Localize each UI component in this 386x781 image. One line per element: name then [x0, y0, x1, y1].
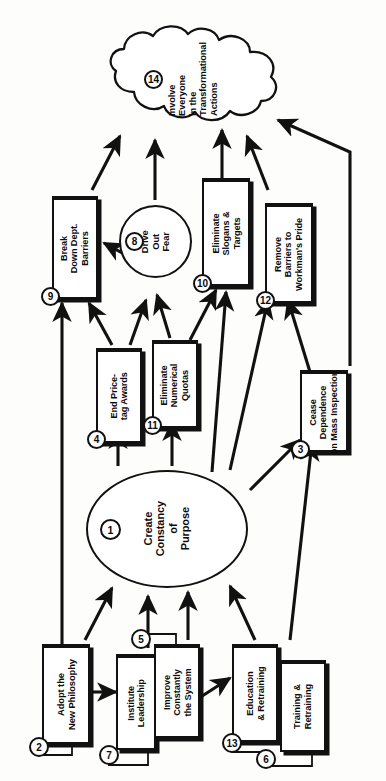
- node-7-label: Institute Leadership: [126, 679, 147, 727]
- node-11-box[interactable]: Eliminate Numerical Quotas: [152, 340, 198, 428]
- edge-12-to-14: [247, 136, 268, 190]
- node-2-box[interactable]: Adopt the New Philosophy: [42, 644, 90, 744]
- node-6-text-wrap: Training & Retraining: [282, 664, 324, 750]
- node-9-text-wrap: Break Down Dept. Barriers: [54, 200, 96, 297]
- edge-11-to-8: [157, 295, 170, 338]
- node-7-number: 7: [99, 745, 119, 765]
- node-3-number: 3: [291, 440, 310, 459]
- edge-2-to-1: [85, 588, 112, 640]
- node-12-number: 12: [256, 291, 275, 310]
- node-1-label: Create Constancy of Purpose: [142, 501, 191, 556]
- node-4-label: End Price- tag Awards: [109, 372, 130, 420]
- node-4-text-wrap: End Price- tag Awards: [98, 352, 140, 441]
- node-13-text-wrap: Education & Retraining: [234, 648, 276, 740]
- node-3-label: Cease Dependence on Mass Inspection: [309, 370, 340, 453]
- edge-3-to-12: [288, 300, 310, 372]
- node-7-text-wrap: Institute Leadership: [118, 658, 154, 748]
- node-2-label: Adopt the New Philosophy: [55, 659, 76, 730]
- node-4-number: 4: [87, 430, 106, 449]
- diagram-canvas: Involve Everyone in the Transformational…: [0, 0, 386, 781]
- node-14-text-wrap: Involve Everyone in the Transformational…: [98, 22, 288, 137]
- node-6-box[interactable]: Training & Retraining: [280, 660, 326, 752]
- node-11-number: 11: [143, 416, 162, 435]
- edge-9-to-14: [92, 136, 120, 190]
- node-5-number: 5: [131, 629, 151, 649]
- edge-1-to-10: [212, 292, 226, 472]
- node-5-box[interactable]: Improve Constantly the System: [154, 644, 200, 738]
- node-13-box[interactable]: Education & Retraining: [232, 644, 278, 742]
- edge-5-to-13: [196, 678, 230, 700]
- node-5-text-wrap: Improve Constantly the System: [156, 648, 198, 736]
- node-3-text-wrap: Cease Dependence on Mass Inspection: [302, 374, 346, 450]
- node-8-number: 8: [125, 232, 144, 251]
- node-10-text-wrap: Eliminate Slogans & Targets: [204, 182, 248, 284]
- node-12-text-wrap: Remove Barriers to Workman's Pride: [267, 207, 311, 301]
- node-10-label: Eliminate Slogans & Targets: [211, 211, 242, 255]
- node-10-number: 10: [193, 274, 212, 293]
- node-6-label: Training & Retraining: [292, 684, 313, 729]
- node-3-box[interactable]: Cease Dependence on Mass Inspection: [300, 370, 348, 452]
- node-1-number: 1: [100, 519, 121, 540]
- node-14-label: Involve Everyone in the Transformational…: [167, 43, 219, 117]
- node-6-number: 6: [256, 749, 276, 769]
- node-5-label: Improve Constantly the System: [162, 668, 193, 716]
- node-13-label: Education & Retraining: [244, 667, 265, 722]
- node-7-box[interactable]: Institute Leadership: [116, 654, 156, 750]
- edge-6-to-3: [290, 442, 312, 640]
- edge-4-to-9: [89, 303, 112, 345]
- node-2-text-wrap: Adopt the New Philosophy: [44, 648, 88, 742]
- node-13-number: 13: [222, 733, 242, 753]
- node-9-number: 9: [41, 287, 60, 306]
- node-9-label: Break Down Dept. Barriers: [60, 224, 91, 274]
- node-12-box[interactable]: Remove Barriers to Workman's Pride: [265, 203, 313, 303]
- edge-4-to-8: [130, 300, 146, 345]
- node-14-number: 14: [144, 70, 163, 89]
- edge-13-to-1: [230, 586, 255, 640]
- edge-1-to-12: [230, 300, 268, 470]
- node-10-box[interactable]: Eliminate Slogans & Targets: [202, 178, 250, 286]
- edge-11-to-10: [190, 290, 216, 340]
- node-11-text-wrap: Eliminate Numerical Quotas: [154, 344, 196, 426]
- node-9-box[interactable]: Break Down Dept. Barriers: [52, 196, 98, 299]
- node-8-label: Drive Out Fear: [140, 230, 172, 253]
- node-2-number: 2: [29, 737, 49, 757]
- node-14-cloud[interactable]: Involve Everyone in the Transformational…: [98, 22, 288, 137]
- node-11-label: Eliminate Numerical Quotas: [160, 363, 191, 407]
- node-4-box[interactable]: End Price- tag Awards: [96, 348, 142, 443]
- node-12-label: Remove Barriers to Workman's Pride: [274, 217, 305, 290]
